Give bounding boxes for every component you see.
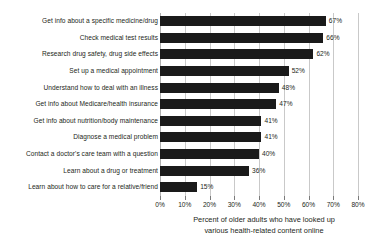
x-tick-label-60: 60% [302,200,315,209]
horizontal-bar-chart: Get info about a specific medicine/drug6… [0,0,368,248]
bar-group: 47% [160,99,293,109]
bar-value-label: 40% [262,150,275,158]
bar-group: 67% [160,16,342,26]
bar-value-label: 15% [200,183,213,191]
bar [160,132,261,142]
bar-row: Research drug safety, drug side effects6… [0,46,368,63]
x-axis-tick-labels: 0%10%20%30%40%50%60%70%80% [0,200,368,212]
category-label: Set up a medical appointment [2,67,158,75]
bar-row: Get info about nutrition/body maintenanc… [0,113,368,130]
bar-value-label: 47% [279,100,292,108]
bar-group: 52% [160,66,305,76]
category-label: Get info about Medicare/health insurance [2,100,158,108]
bar-group: 66% [160,33,340,43]
x-tick-label-10: 10% [178,200,191,209]
category-label: Diagnose a medical problem [2,133,158,141]
bar-value-label: 67% [329,17,342,25]
x-axis-title-line-2: various health-related content online [160,226,368,237]
category-label: Learn about a drug or treatment [2,167,158,175]
bar-group: 48% [160,83,295,93]
x-tick-label-0: 0% [155,200,165,209]
x-tick-label-80: 80% [351,200,364,209]
category-label: Contact a doctor's care team with a ques… [2,150,158,158]
bar [160,66,289,76]
bar-value-label: 52% [292,67,305,75]
bar-group: 62% [160,49,330,59]
x-tick-label-20: 20% [203,200,216,209]
x-tick-label-50: 50% [277,200,290,209]
bar-row: Contact a doctor's care team with a ques… [0,146,368,163]
bar-value-label: 41% [264,117,277,125]
bar-rows: Get info about a specific medicine/drug6… [0,0,368,196]
bar-value-label: 62% [316,50,329,58]
bar-group: 41% [160,116,278,126]
x-axis-title: Percent of older adults who have looked … [160,215,368,236]
bar-row: Learn about a drug or treatment36% [0,162,368,179]
bar-group: 36% [160,166,265,176]
bar-group: 15% [160,182,213,192]
bar-row: Understand how to deal with an illness48… [0,79,368,96]
category-label: Check medical test results [2,34,158,42]
bar [160,149,259,159]
bar-row: Get info about Medicare/health insurance… [0,96,368,113]
x-tick-label-70: 70% [327,200,340,209]
x-axis-title-line-1: Percent of older adults who have looked … [160,215,368,226]
bar-value-label: 36% [252,167,265,175]
category-label: Understand how to deal with an illness [2,84,158,92]
bar-row: Learn about how to care for a relative/f… [0,179,368,196]
bar [160,16,326,26]
bar-row: Set up a medical appointment52% [0,63,368,80]
bar [160,182,197,192]
category-label: Get info about a specific medicine/drug [2,17,158,25]
bar-value-label: 41% [264,133,277,141]
bar-row: Check medical test results66% [0,30,368,47]
category-label: Research drug safety, drug side effects [2,50,158,58]
bar-row: Diagnose a medical problem41% [0,129,368,146]
category-label: Learn about how to care for a relative/f… [2,183,158,191]
bar [160,33,323,43]
bar-group: 41% [160,132,278,142]
bar-row: Get info about a specific medicine/drug6… [0,13,368,30]
bar [160,166,249,176]
bar [160,116,261,126]
bar [160,49,313,59]
bar-group: 40% [160,149,275,159]
bar [160,99,276,109]
bar-value-label: 66% [326,34,339,42]
bar [160,83,279,93]
bar-value-label: 48% [282,84,295,92]
x-tick-label-40: 40% [252,200,265,209]
category-label: Get info about nutrition/body maintenanc… [2,117,158,125]
x-tick-label-30: 30% [228,200,241,209]
